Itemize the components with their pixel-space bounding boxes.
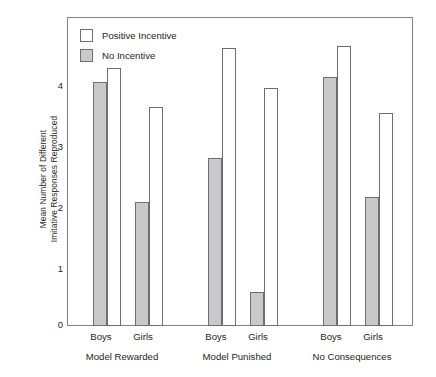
x-group-label-no-consequences: No Consequences (292, 351, 412, 362)
chart-legend: Positive Incentive No Incentive (80, 27, 230, 67)
y-tick-label-2: 2 (49, 203, 63, 213)
bar-model-punished-girls-no-incentive (250, 292, 264, 326)
bar-model-punished-boys-positive-incentive (222, 48, 236, 326)
bar-model-rewarded-girls-no-incentive (135, 202, 149, 326)
x-label-no-consequences-boys: Boys (311, 331, 351, 342)
bar-chart-figure: Mean Number of Different Imitative Respo… (0, 0, 436, 377)
y-axis-title-line-1: Mean Number of Different (38, 54, 49, 304)
x-label-no-consequences-girls: Girls (353, 331, 393, 342)
legend-label-no-incentive: No Incentive (102, 50, 155, 61)
x-group-label-model-rewarded: Model Rewarded (62, 351, 182, 362)
bar-model-rewarded-boys-positive-incentive (107, 68, 121, 326)
x-label-model-punished-boys: Boys (196, 331, 236, 342)
y-tick-label-4: 4 (49, 81, 63, 91)
bar-model-rewarded-girls-positive-incentive (149, 107, 163, 326)
y-tick-label-0: 0 (49, 320, 63, 330)
legend-item-no-incentive: No Incentive (80, 47, 230, 64)
legend-swatch-filled-icon (80, 49, 93, 62)
legend-label-positive-incentive: Positive Incentive (102, 30, 177, 41)
bar-model-punished-girls-positive-incentive (264, 88, 278, 326)
x-group-label-model-punished: Model Punished (177, 351, 297, 362)
bar-no-consequences-boys-no-incentive (323, 77, 337, 326)
bar-no-consequences-girls-positive-incentive (379, 113, 393, 326)
y-tick-label-1: 1 (49, 264, 63, 274)
x-label-model-punished-girls: Girls (238, 331, 278, 342)
y-tick-label-3: 3 (49, 142, 63, 152)
legend-swatch-hollow-icon (80, 29, 93, 42)
bar-no-consequences-boys-positive-incentive (337, 46, 351, 326)
x-label-model-rewarded-girls: Girls (123, 331, 163, 342)
bar-no-consequences-girls-no-incentive (365, 197, 379, 326)
bar-model-punished-boys-no-incentive (208, 158, 222, 326)
bar-model-rewarded-boys-no-incentive (93, 82, 107, 327)
legend-item-positive-incentive: Positive Incentive (80, 27, 230, 44)
x-label-model-rewarded-boys: Boys (81, 331, 121, 342)
